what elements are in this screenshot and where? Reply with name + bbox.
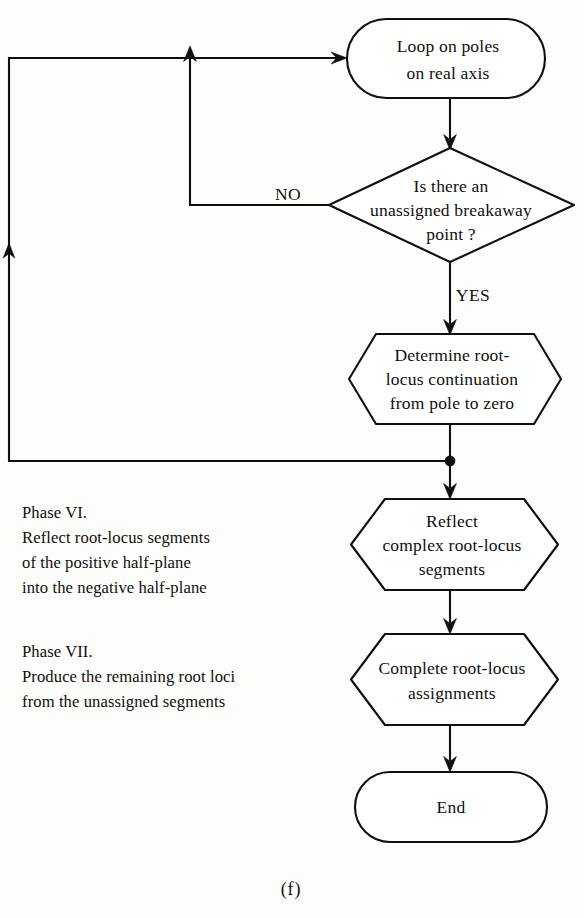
connector-complete-to-end: [444, 725, 457, 772]
connector-start-to-decision: [444, 98, 457, 150]
no-feedback-path: [190, 58, 329, 205]
loop-on-poles-line-2: on real axis: [406, 63, 489, 83]
determine-line-1: Determine root-: [394, 345, 509, 365]
figure-page: Loop on poles on real axis Is there an u…: [0, 0, 584, 918]
phase-vii-line-1: Produce the remaining root loci: [22, 667, 236, 686]
node-determine-continuation[interactable]: Determine root- locus continuation from …: [349, 334, 561, 424]
complete-hexagon-shape: [351, 634, 558, 725]
decision-line-1: Is there an: [413, 176, 488, 196]
phase-vi-heading: Phase VI.: [22, 503, 87, 522]
loop-on-poles-line-1: Loop on poles: [397, 36, 500, 56]
reflect-line-2: complex root-locus: [382, 535, 521, 555]
branch-label-yes: YES: [456, 285, 490, 305]
phase-vii-line-2: from the unassigned segments: [22, 692, 225, 711]
reflect-line-1: Reflect: [426, 511, 478, 531]
complete-line-2: assignments: [408, 683, 496, 703]
node-decision-breakaway[interactable]: Is there an unassigned breakaway point ?: [329, 148, 574, 262]
determine-line-3: from pole to zero: [390, 393, 514, 413]
phase-vi-line-3: into the negative half-plane: [22, 578, 207, 597]
decision-line-2: unassigned breakaway: [370, 200, 532, 220]
connector-determine-to-reflect: [444, 424, 457, 499]
decision-line-3: point ?: [426, 224, 476, 244]
branch-label-no: NO: [275, 184, 301, 204]
loop-on-poles-terminator-shape: [347, 19, 545, 98]
node-loop-on-poles[interactable]: Loop on poles on real axis: [347, 19, 545, 98]
complete-line-1: Complete root-locus: [378, 658, 525, 678]
flowchart-canvas: Loop on poles on real axis Is there an u…: [0, 0, 584, 918]
phase-vi-line-2: of the positive half-plane: [22, 553, 191, 572]
phase-vi-line-1: Reflect root-locus segments: [22, 528, 210, 547]
annotation-phase-vi: Phase VI. Reflect root-locus segments of…: [22, 503, 210, 597]
end-label: End: [437, 797, 466, 817]
reflect-line-3: segments: [419, 559, 486, 579]
connector-decision-to-determine: [444, 262, 457, 335]
phase-vii-heading: Phase VII.: [22, 642, 93, 661]
figure-caption: (f): [281, 879, 301, 900]
determine-line-2: locus continuation: [386, 369, 518, 389]
loop-junction-dot: [445, 456, 456, 467]
no-feedback-loop: [184, 46, 329, 205]
node-complete-assignments[interactable]: Complete root-locus assignments: [351, 634, 558, 725]
node-end[interactable]: End: [355, 772, 547, 842]
annotation-phase-vii: Phase VII. Produce the remaining root lo…: [22, 642, 236, 711]
connector-reflect-to-complete: [444, 590, 457, 634]
node-reflect-segments[interactable]: Reflect complex root-locus segments: [351, 499, 558, 590]
